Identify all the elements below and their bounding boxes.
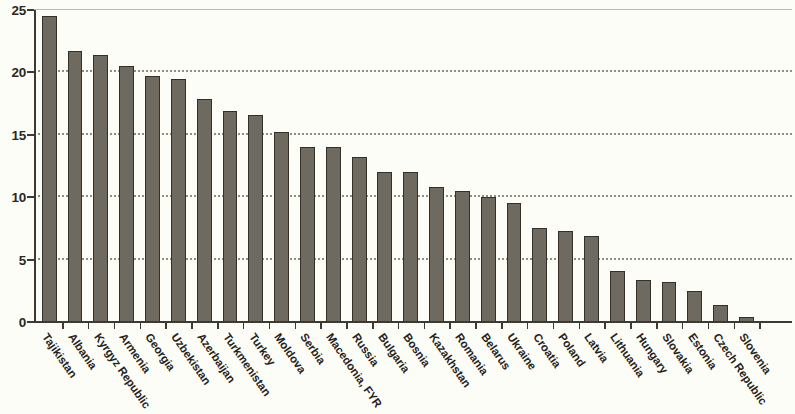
x-tick-mark — [604, 323, 606, 329]
y-axis-line — [34, 10, 36, 322]
x-tick-mark — [759, 323, 761, 329]
y-tick-mark — [27, 71, 34, 73]
x-tick-mark — [656, 323, 658, 329]
bar-chart: 0510152025 TajikistanAlbaniaKyrgyz Repub… — [0, 0, 795, 414]
bar — [532, 228, 547, 322]
y-tick-label: 10 — [11, 190, 26, 205]
x-tick-mark — [579, 323, 581, 329]
bar — [145, 76, 160, 322]
y-tick-mark — [27, 9, 34, 11]
y-tick-label: 5 — [19, 252, 26, 267]
bar — [377, 172, 392, 322]
y-axis-ticks: 0510152025 — [0, 10, 34, 322]
bar — [197, 99, 212, 322]
x-tick-mark — [320, 323, 322, 329]
bar — [636, 280, 651, 322]
gridline-25 — [34, 9, 792, 10]
x-tick-mark — [295, 323, 297, 329]
x-tick-mark — [269, 323, 271, 329]
bar — [584, 236, 599, 322]
y-tick-mark — [27, 259, 34, 261]
x-tick-mark — [346, 323, 348, 329]
x-tick-mark — [449, 323, 451, 329]
x-tick-mark — [527, 323, 529, 329]
bar — [171, 79, 186, 322]
bar — [42, 16, 57, 322]
x-tick-mark — [553, 323, 555, 329]
bar — [713, 305, 728, 322]
x-axis-label: Latvia — [582, 331, 611, 365]
x-tick-mark — [682, 323, 684, 329]
x-tick-mark — [114, 323, 116, 329]
bar — [662, 282, 677, 322]
x-tick-mark — [243, 323, 245, 329]
bar — [507, 203, 522, 322]
y-tick-label: 25 — [11, 3, 26, 18]
x-tick-mark — [501, 323, 503, 329]
bar — [481, 197, 496, 322]
bar — [274, 132, 289, 322]
y-tick-label: 20 — [11, 65, 26, 80]
y-tick-label: 0 — [19, 315, 26, 330]
x-tick-mark — [165, 323, 167, 329]
y-tick-mark — [27, 196, 34, 198]
bar — [610, 271, 625, 322]
y-tick-mark — [27, 134, 34, 136]
bar — [93, 55, 108, 322]
x-tick-mark — [217, 323, 219, 329]
bar — [403, 172, 418, 322]
x-tick-mark — [398, 323, 400, 329]
bar — [352, 157, 367, 322]
bar — [119, 66, 134, 322]
plot-area — [34, 10, 792, 322]
bar — [326, 147, 341, 322]
x-tick-mark — [424, 323, 426, 329]
y-tick-label: 15 — [11, 127, 26, 142]
x-tick-mark — [630, 323, 632, 329]
x-tick-mark — [475, 323, 477, 329]
x-tick-mark — [734, 323, 736, 329]
x-tick-mark — [140, 323, 142, 329]
bar — [558, 231, 573, 322]
y-tick-mark — [27, 321, 34, 323]
x-tick-mark — [372, 323, 374, 329]
bar — [429, 187, 444, 322]
gridline-20 — [34, 70, 792, 72]
x-tick-mark — [62, 323, 64, 329]
bar — [68, 51, 83, 322]
x-tick-mark — [191, 323, 193, 329]
bar — [248, 115, 263, 322]
x-tick-mark — [88, 323, 90, 329]
bar — [455, 191, 470, 322]
bar — [223, 111, 238, 322]
x-tick-mark — [708, 323, 710, 329]
bar — [687, 291, 702, 322]
x-axis-line — [34, 321, 792, 323]
bar — [300, 147, 315, 322]
